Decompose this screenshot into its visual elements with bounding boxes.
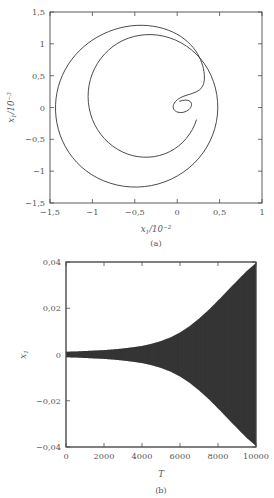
panel-b-xaxis-title: T — [158, 469, 165, 479]
panel-a: 1,5 1 0,5 0 −0,5 −1 −1,5 −1,5 −1 −0,5 0 … — [0, 0, 274, 250]
panel-b-ytick-1: 0,02 — [43, 303, 61, 313]
panel-b-yaxis-title: x1 — [18, 350, 29, 358]
panel-a-xtick-1: −1 — [86, 207, 98, 217]
panel-b-xtick-4: 8000 — [208, 451, 229, 461]
panel-a-svg: 1,5 1 0,5 0 −0,5 −1 −1,5 −1,5 −1 −0,5 0 … — [0, 0, 274, 250]
panel-a-yaxis-sup: −3 — [6, 92, 12, 101]
panel-a-caption: (a) — [150, 238, 161, 248]
panel-a-ytick-5: −1 — [33, 166, 45, 176]
panel-a-ytick-2: 0,5 — [32, 71, 45, 81]
panel-b-signal-group — [66, 263, 256, 446]
panel-b-ytick-4: −0,04 — [36, 442, 61, 452]
panel-b-yaxis-sub: 1 — [23, 350, 29, 354]
panel-a-xtick-4: 0,5 — [213, 207, 226, 217]
panel-a-y-ticks — [50, 12, 262, 203]
panel-b-ytick-0: 0,04 — [43, 257, 61, 267]
phase-trajectory-curve — [55, 25, 217, 187]
panel-a-x-ticks — [50, 12, 262, 203]
panel-a-ytick-0: 1,5 — [32, 7, 45, 17]
panel-b-xtick-3: 6000 — [170, 451, 191, 461]
figure-container: 1,5 1 0,5 0 −0,5 −1 −1,5 −1,5 −1 −0,5 0 … — [0, 0, 274, 498]
panel-a-ytick-4: −0,5 — [25, 134, 45, 144]
panel-a-xtick-3: 0 — [175, 207, 180, 217]
panel-a-xaxis-mid: /10 — [148, 224, 163, 234]
panel-b-xtick-5: 10000 — [243, 451, 269, 461]
panel-b-xtick-0: 0 — [63, 451, 68, 461]
panel-b-ytick-2: 0 — [56, 350, 61, 360]
panel-a-xaxis-sup: −2 — [163, 224, 172, 230]
panel-b-ytick-3: −0,02 — [36, 396, 61, 406]
panel-b: 0,04 0,02 0 −0,02 −0,04 0 2000 4000 6000… — [0, 250, 274, 498]
panel-a-axes-frame — [50, 12, 262, 203]
panel-b-xtick-1: 2000 — [94, 451, 115, 461]
panel-b-svg: 0,04 0,02 0 −0,02 −0,04 0 2000 4000 6000… — [0, 250, 274, 498]
panel-a-xtick-2: −0,5 — [125, 207, 145, 217]
panel-a-ytick-1: 1 — [40, 39, 45, 49]
panel-b-xtick-2: 4000 — [132, 451, 153, 461]
panel-a-yaxis-title: x1/10−3 — [6, 92, 17, 123]
panel-a-xaxis-title: x1/10−2 — [141, 224, 172, 235]
panel-a-xtick-5: 1 — [259, 207, 264, 217]
panel-a-xtick-0: −1,5 — [40, 207, 60, 217]
panel-a-yaxis-mid: /10 — [6, 100, 16, 115]
panel-b-caption: (b) — [155, 485, 167, 495]
panel-a-ytick-3: 0 — [40, 103, 45, 113]
